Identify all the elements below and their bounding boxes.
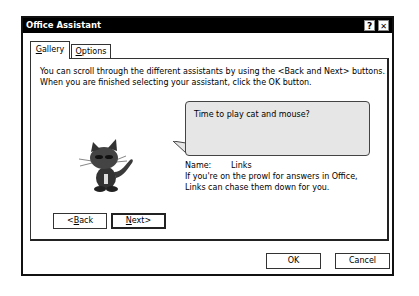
office-assistant-dialog: Office Assistant ? ✕ Gallery Options You… xyxy=(21,16,394,276)
tab-options-label: ptions xyxy=(82,47,107,56)
gallery-panel: You can scroll through the different ass… xyxy=(30,58,389,241)
speech-bubble: Time to play cat and mouse? xyxy=(185,101,370,156)
close-button[interactable]: ✕ xyxy=(378,20,389,31)
ok-button[interactable]: OK xyxy=(266,253,321,269)
window-title: Office Assistant xyxy=(26,20,101,30)
back-button[interactable]: <Back xyxy=(53,213,107,229)
next-button[interactable]: Next> xyxy=(111,213,166,229)
assistant-info: Name: Links If you're on the prowl for a… xyxy=(185,160,375,193)
tab-gallery[interactable]: Gallery xyxy=(30,41,70,59)
tab-options[interactable]: Options xyxy=(71,44,111,58)
name-label: Name: xyxy=(185,160,231,171)
next-button-label: ext> xyxy=(132,216,151,225)
help-button[interactable]: ? xyxy=(364,20,375,31)
cancel-button[interactable]: Cancel xyxy=(335,253,390,269)
gallery-description: You can scroll through the different ass… xyxy=(40,66,385,88)
bubble-text: Time to play cat and mouse? xyxy=(194,110,310,119)
back-button-prefix: < xyxy=(67,216,74,225)
assistant-description: If you're on the prowl for answers in Of… xyxy=(185,171,375,193)
name-value: Links xyxy=(231,160,252,171)
tab-gallery-label: allery xyxy=(42,45,64,54)
title-bar: Office Assistant ? ✕ xyxy=(23,18,392,33)
back-button-label: ack xyxy=(79,216,93,225)
cat-character-icon xyxy=(74,134,134,194)
